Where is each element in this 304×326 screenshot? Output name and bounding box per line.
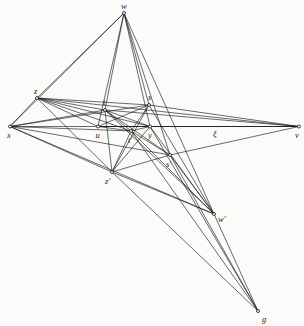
node-group [9, 12, 301, 313]
node-point-tp[interactable] [130, 130, 133, 133]
edge-tp-g [131, 131, 258, 311]
edge-z-u [37, 98, 98, 127]
node-label-v: v [295, 131, 299, 140]
edge-group [10, 13, 299, 311]
node-label-wp: w′ [218, 215, 226, 224]
edge-t-wp [105, 110, 214, 214]
node-label-s: s [148, 93, 151, 102]
node-point-sp[interactable] [169, 154, 172, 157]
node-point-t[interactable] [104, 109, 107, 112]
node-label-sp: s′ [166, 160, 171, 169]
node-label-g: g [262, 315, 266, 324]
edge-sp-v [170, 127, 299, 156]
diagram-canvas: wztsxuyvt′s′z′w′gξ [0, 0, 304, 326]
edge-z-v [37, 98, 299, 127]
node-point-wp[interactable] [213, 213, 216, 216]
edge-y-zp [112, 127, 150, 173]
aux-label-xi: ξ [213, 130, 217, 139]
edge-w-sp [124, 13, 170, 155]
node-label-t: t [103, 98, 105, 107]
node-point-s[interactable] [148, 104, 151, 107]
node-label-u: u [96, 131, 100, 140]
node-label-x: x [7, 131, 11, 140]
node-point-v[interactable] [298, 125, 301, 128]
edge-w-s [124, 13, 149, 105]
node-label-w: w [121, 2, 127, 11]
edge-s-wp [149, 105, 214, 214]
node-label-tp: t′ [128, 136, 132, 145]
node-point-z[interactable] [36, 97, 39, 100]
node-point-zp[interactable] [111, 171, 114, 174]
edge-y-g [150, 127, 258, 312]
edge-zp-g [112, 172, 258, 311]
node-point-x[interactable] [9, 125, 12, 128]
node-label-zp: z′ [105, 177, 110, 186]
edge-wp-g [214, 214, 258, 311]
node-label-y: y [148, 131, 152, 140]
edge-w-wp [124, 13, 214, 214]
node-point-g[interactable] [257, 310, 260, 313]
node-point-y[interactable] [149, 125, 152, 128]
node-point-w[interactable] [123, 12, 126, 15]
edge-t-sp [105, 110, 170, 155]
edge-w-z [37, 13, 124, 98]
node-point-u[interactable] [97, 125, 100, 128]
edge-sp-g [170, 155, 258, 311]
edge-w-t [105, 13, 124, 110]
edge-t-zp [105, 110, 112, 172]
node-label-z: z [34, 87, 37, 96]
geometry-diagram [0, 0, 304, 326]
